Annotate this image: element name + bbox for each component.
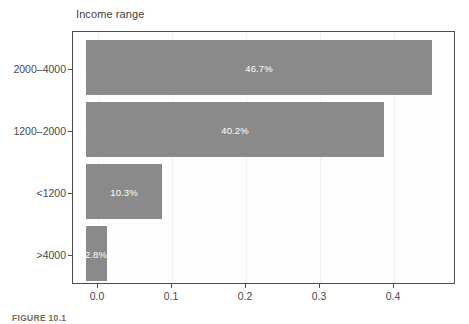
x-tick-label: 0.4 <box>386 290 401 302</box>
y-tick-label: 2000–4000 <box>13 63 66 75</box>
y-tick-mark <box>68 255 72 256</box>
bar-value-label: 2.8% <box>85 248 107 259</box>
x-tick-mark <box>171 284 172 288</box>
bar-value-label: 40.2% <box>221 124 248 135</box>
x-tick-label: 0.0 <box>90 290 105 302</box>
y-tick-label: >4000 <box>37 249 67 261</box>
x-tick-mark <box>319 284 320 288</box>
bar-value-label: 10.3% <box>110 186 137 197</box>
x-tick-mark <box>97 284 98 288</box>
x-tick-label: 0.3 <box>312 290 327 302</box>
y-tick-mark <box>68 193 72 194</box>
x-tick-mark <box>393 284 394 288</box>
figure-caption: FIGURE 10.1 <box>12 313 66 323</box>
x-tick-mark <box>245 284 246 288</box>
x-tick-label: 0.1 <box>164 290 179 302</box>
y-tick-mark <box>68 69 72 70</box>
y-tick-label: 1200–2000 <box>13 125 66 137</box>
plot-panel: 46.7% 40.2% 10.3% 2.8% <box>72 31 455 284</box>
y-tick-mark <box>68 131 72 132</box>
y-tick-label: <1200 <box>37 187 67 199</box>
x-tick-label: 0.2 <box>238 290 253 302</box>
y-axis: 2000–4000 1200–2000 <1200 >4000 <box>0 0 66 324</box>
panel-title: Income range <box>76 8 144 20</box>
bar-value-label: 46.7% <box>245 62 272 73</box>
figure-container: Income range 46.7% 40.2% 10.3% 2.8% 2000… <box>0 0 469 324</box>
